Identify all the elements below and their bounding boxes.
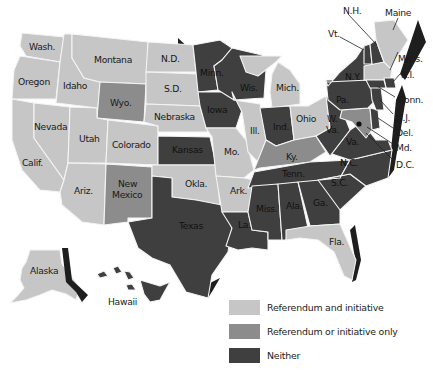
legend-swatch-light [229,300,260,315]
label-texas: Texas [178,220,203,231]
label-tenn: Tenn. [281,168,305,179]
legend-label: Referendum or initiative only [267,326,398,337]
label-nj: N.J. [396,112,410,123]
legend-item-neither: Neither [229,343,398,367]
state-fla [286,224,356,280]
label-hawaii: Hawaii [108,296,137,307]
label-wis: Wis. [240,82,258,93]
legend-item-referendum-or-initiative-only: Referendum or initiative only [229,319,398,343]
label-nh: N.H. [343,5,361,16]
label-nebraska: Nebraska [154,111,195,122]
legend-label: Neither [267,350,300,361]
label-kansas: Kansas [172,144,203,155]
label-sd: S.D. [164,83,182,94]
label-minn: Minn. [200,67,224,78]
label-ohio: Ohio [296,113,317,124]
label-okla: Okla. [185,178,207,189]
label-conn: Conn. [398,94,423,105]
legend-swatch-dark [229,348,260,363]
hawaii-island-1 [97,271,108,278]
label-miss: Miss. [256,203,277,214]
label-mo: Mo. [224,146,239,157]
label-va: Va. [346,136,359,147]
label-ky: Ky. [286,151,298,162]
hawaii-island-5 [140,280,170,302]
label-ri: R.I. [401,69,414,80]
label-wva-1: W. [327,113,337,124]
legend: Referendum and initiative Referendum or … [229,295,398,367]
legend-label: Referendum and initiative [267,302,384,313]
label-colorado: Colorado [112,139,151,150]
label-calif: Calif. [22,157,43,168]
label-ny: N.Y. [345,71,360,82]
hawaii-island-2 [113,266,122,274]
label-maine: Maine [385,7,412,18]
label-mass: Mass. [398,53,423,64]
label-ark: Ark. [230,185,247,196]
hawaii-island-4 [126,284,136,290]
label-nevada: Nevada [34,121,67,132]
label-new-mexico-2: Mexico [112,189,143,200]
label-md: Md. [396,142,412,153]
dc-marker [356,121,361,126]
state-conn [366,80,386,88]
hawaii-island-3 [124,271,134,280]
label-new-mexico-1: New [118,178,138,189]
label-del: Del. [396,127,413,138]
label-ill: Ill. [250,125,260,136]
label-nd: N.D. [161,53,180,64]
label-montana: Montana [94,54,132,65]
label-ind: Ind. [273,121,289,132]
label-vt: Vt. [328,28,340,39]
label-wva-2: Va. [326,124,339,135]
label-dc: D.C. [396,159,414,170]
callout-nh [348,14,377,45]
label-alaska: Alaska [30,265,58,276]
label-ariz: Ariz. [74,185,93,196]
label-nc: N.C. [340,157,358,168]
state-del [370,108,380,130]
label-fla: Fla. [329,236,344,247]
callout-vt [340,37,364,50]
label-la: La. [238,219,251,230]
label-ala: Ala. [286,200,302,211]
label-iowa: Iowa [207,104,227,115]
label-mich: Mich. [276,82,299,93]
legend-swatch-medium [229,324,260,339]
label-wyo: Wyo. [110,97,132,108]
label-idaho: Idaho [63,80,88,91]
label-oregon: Oregon [18,76,50,87]
label-pa: Pa. [336,94,349,105]
legend-item-referendum-and-initiative: Referendum and initiative [229,295,398,319]
label-wash: Wash. [29,41,55,52]
label-utah: Utah [79,133,100,144]
label-ga: Ga. [313,197,328,208]
label-sc: S.C. [331,177,348,188]
